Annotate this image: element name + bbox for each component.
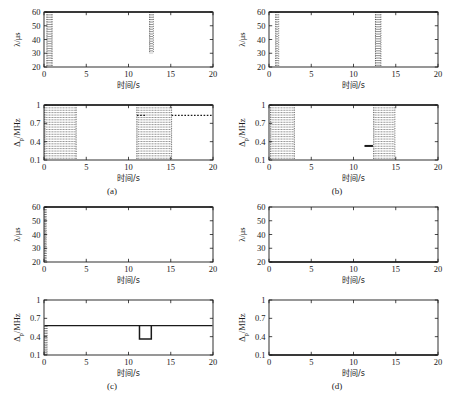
- x-tick-label: 5: [84, 162, 88, 172]
- y-tick-label: 40: [257, 35, 266, 45]
- x-tick-label: 20: [209, 69, 218, 79]
- x-tick-label: 20: [434, 264, 443, 274]
- y-tick-label: 0.4: [255, 332, 266, 342]
- x-tick-label: 5: [309, 162, 313, 172]
- y-tick-label: 0.1: [255, 155, 266, 165]
- subplot-lambda-b: 051015202030405060λ/μs时间/s: [237, 7, 442, 90]
- y-tick-label: 20: [32, 62, 41, 72]
- x-tick-label: 15: [167, 264, 176, 274]
- series-event: [45, 105, 76, 160]
- y-tick-label: 60: [257, 202, 266, 212]
- y-axis-label: λ/μs: [237, 227, 247, 241]
- y-tick-label: 30: [32, 48, 41, 58]
- x-tick-label: 15: [392, 69, 401, 79]
- x-tick-label: 5: [309, 69, 313, 79]
- y-tick-label: 0.1: [30, 155, 41, 165]
- panel-b: 051015202030405060λ/μs时间/s051015200.10.4…: [225, 2, 449, 198]
- y-tick-label: 0.1: [255, 350, 266, 360]
- panel-caption: (d): [225, 381, 449, 391]
- y-axis-label: Δp/MHz: [12, 313, 24, 342]
- x-tick-label: 20: [434, 357, 443, 367]
- panel-caption: (b): [225, 186, 449, 196]
- y-axis-label: λ/μs: [12, 227, 22, 241]
- x-tick-label: 0: [42, 69, 46, 79]
- x-tick-label: 0: [42, 264, 46, 274]
- subplot-lambda-c: 051015202030405060λ/μs时间/s: [12, 202, 217, 285]
- x-axis-label: 时间/s: [342, 80, 365, 90]
- y-tick-label: 20: [257, 62, 266, 72]
- subplot-lambda-a: 051015202030405060λ/μs时间/s: [12, 7, 217, 90]
- y-tick-label: 50: [32, 21, 41, 31]
- subplot-delta-a: 051015200.10.40.71Δp/MHz时间/s: [12, 100, 217, 183]
- x-axis-label: 时间/s: [117, 80, 140, 90]
- y-tick-label: 0.7: [255, 313, 266, 323]
- x-tick-label: 10: [349, 264, 358, 274]
- y-tick-label: 30: [257, 243, 266, 253]
- x-tick-label: 10: [124, 69, 133, 79]
- x-axis-label: 时间/s: [342, 173, 365, 183]
- y-tick-label: 30: [257, 48, 266, 58]
- y-tick-label: 40: [32, 35, 41, 45]
- x-tick-label: 10: [124, 264, 133, 274]
- y-tick-label: 0.7: [255, 118, 266, 128]
- x-tick-label: 10: [349, 357, 358, 367]
- y-tick-label: 0.4: [30, 332, 41, 342]
- figure-canvas: 051015202030405060λ/μs时间/s051015200.10.4…: [0, 0, 449, 401]
- x-tick-label: 20: [209, 264, 218, 274]
- plot-frame: [44, 105, 213, 160]
- subplot-delta-d: 051015200.10.40.71Δp/MHz时间/s: [237, 295, 442, 378]
- x-tick-label: 0: [267, 162, 271, 172]
- y-tick-label: 1: [36, 295, 40, 305]
- y-tick-label: 0.4: [30, 137, 41, 147]
- y-tick-label: 0.4: [255, 137, 266, 147]
- y-tick-label: 0.7: [30, 313, 41, 323]
- y-tick-label: 1: [261, 100, 265, 110]
- panel-c: 051015202030405060λ/μs时间/s051015200.10.4…: [0, 197, 224, 393]
- x-tick-label: 0: [267, 357, 271, 367]
- series-event: [375, 12, 380, 67]
- plot-frame: [269, 12, 438, 67]
- x-tick-label: 15: [392, 264, 401, 274]
- subplot-delta-b: 051015200.10.40.71Δp/MHz时间/s: [237, 100, 442, 183]
- panel-a: 051015202030405060λ/μs时间/s051015200.10.4…: [0, 2, 224, 198]
- y-tick-label: 40: [32, 230, 41, 240]
- x-axis-label: 时间/s: [117, 368, 140, 378]
- series-event: [47, 12, 52, 67]
- x-axis-label: 时间/s: [342, 368, 365, 378]
- y-axis-label: λ/μs: [12, 32, 22, 46]
- x-tick-label: 15: [167, 162, 176, 172]
- subplot-delta-c: 051015200.10.40.71Δp/MHz时间/s: [12, 295, 217, 378]
- series-event: [374, 105, 395, 160]
- x-tick-label: 0: [267, 69, 271, 79]
- y-tick-label: 60: [257, 7, 266, 17]
- plot-frame: [44, 12, 213, 67]
- x-axis-label: 时间/s: [117, 173, 140, 183]
- plot-frame: [269, 207, 438, 262]
- series-event: [139, 326, 151, 339]
- x-tick-label: 5: [309, 357, 313, 367]
- series-event: [271, 105, 295, 160]
- panel-caption: (c): [0, 381, 224, 391]
- x-tick-label: 5: [84, 264, 88, 274]
- x-axis-label: 时间/s: [342, 275, 365, 285]
- y-tick-label: 60: [32, 202, 41, 212]
- y-tick-label: 30: [32, 243, 41, 253]
- y-tick-label: 40: [257, 230, 266, 240]
- plot-frame: [44, 300, 213, 355]
- x-tick-label: 20: [434, 162, 443, 172]
- y-axis-label: Δp/MHz: [237, 313, 249, 342]
- x-tick-label: 5: [309, 264, 313, 274]
- x-tick-label: 15: [392, 162, 401, 172]
- series-event: [150, 12, 154, 53]
- y-tick-label: 20: [32, 257, 41, 267]
- x-tick-label: 0: [267, 264, 271, 274]
- y-tick-label: 60: [32, 7, 41, 17]
- x-tick-label: 10: [124, 162, 133, 172]
- x-tick-label: 20: [209, 162, 218, 172]
- x-tick-label: 5: [84, 357, 88, 367]
- y-tick-label: 1: [261, 295, 265, 305]
- x-tick-label: 0: [42, 162, 46, 172]
- x-tick-label: 15: [167, 357, 176, 367]
- y-axis-label: Δp/MHz: [12, 118, 24, 147]
- x-tick-label: 10: [124, 357, 133, 367]
